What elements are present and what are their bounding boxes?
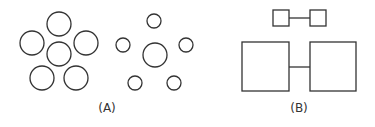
- panel-a-left-group: [20, 12, 98, 90]
- panel-b-large-pair: [242, 42, 356, 91]
- circle-shape: [47, 42, 71, 66]
- circle-shape: [20, 31, 44, 55]
- circle-shape: [128, 76, 142, 90]
- square-shape: [310, 10, 326, 26]
- circle-shape: [47, 12, 71, 36]
- panel-b-small-pair: [273, 10, 326, 26]
- circle-shape: [179, 38, 193, 52]
- circle-shape: [64, 66, 88, 90]
- panel-a-right-group: [116, 14, 193, 90]
- square-shape: [273, 10, 289, 26]
- circle-shape: [167, 76, 181, 90]
- square-shape: [242, 42, 289, 91]
- diagram-canvas: [0, 0, 375, 127]
- circle-shape: [147, 14, 161, 28]
- circle-shape: [143, 43, 167, 67]
- panel-b-label: (B): [290, 101, 308, 115]
- square-shape: [310, 42, 356, 91]
- circle-shape: [30, 66, 54, 90]
- circle-shape: [116, 38, 130, 52]
- panel-a-label: (A): [98, 101, 116, 115]
- circle-shape: [74, 31, 98, 55]
